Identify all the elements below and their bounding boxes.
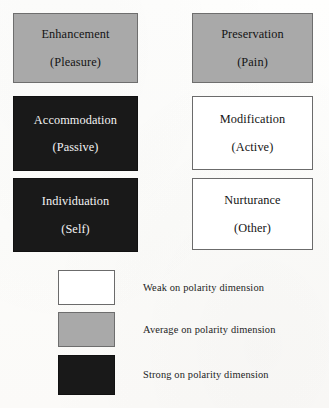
matrix-cell-subtitle: (Self) xyxy=(61,222,90,236)
legend-label-weak: Weak on polarity dimension xyxy=(143,269,264,305)
matrix-cell-subtitle: (Passive) xyxy=(53,140,99,154)
legend-label-strong: Strong on polarity dimension xyxy=(143,354,269,394)
legend: Weak on polarity dimension Average on po… xyxy=(0,266,329,408)
matrix-cell-title: Enhancement xyxy=(41,27,109,41)
legend-item-average: Average on polarity dimension xyxy=(0,311,329,351)
matrix-cell-modification: Modification (Active) xyxy=(192,96,313,170)
matrix-cell-subtitle: (Pain) xyxy=(237,55,268,69)
legend-swatch-weak-icon xyxy=(58,270,115,305)
legend-item-strong: Strong on polarity dimension xyxy=(0,354,329,394)
matrix-cell-title: Nurturance xyxy=(224,193,280,207)
legend-label-average: Average on polarity dimension xyxy=(143,311,276,347)
matrix-cell-subtitle: (Other) xyxy=(234,221,271,235)
matrix-cell-enhancement: Enhancement (Pleasure) xyxy=(13,13,138,83)
legend-swatch-average-icon xyxy=(58,312,115,347)
matrix-cell-individuation: Individuation (Self) xyxy=(13,178,138,252)
legend-swatch-strong-icon xyxy=(58,355,115,395)
matrix-cell-subtitle: (Pleasure) xyxy=(50,55,101,69)
legend-item-weak: Weak on polarity dimension xyxy=(0,269,329,309)
matrix-cell-nurturance: Nurturance (Other) xyxy=(192,178,313,250)
matrix-cell-title: Preservation xyxy=(221,27,284,41)
matrix-cell-subtitle: (Active) xyxy=(232,140,274,154)
matrix-cell-accommodation: Accommodation (Passive) xyxy=(13,96,138,171)
matrix-cell-preservation: Preservation (Pain) xyxy=(192,13,313,83)
polarity-matrix-diagram: Enhancement (Pleasure) Preservation (Pai… xyxy=(0,0,329,408)
matrix-cell-title: Accommodation xyxy=(34,113,117,127)
matrix-cell-title: Individuation xyxy=(42,194,110,208)
matrix-cell-title: Modification xyxy=(220,112,285,126)
